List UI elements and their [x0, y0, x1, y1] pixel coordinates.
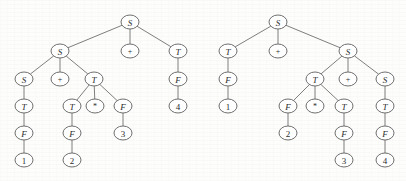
- node-label: S: [383, 75, 388, 85]
- tree-node: S: [51, 44, 69, 58]
- tree-edge: [321, 84, 338, 100]
- node-label: +: [128, 47, 133, 56]
- tree-edge: [30, 56, 53, 74]
- node-label: F: [381, 129, 388, 139]
- node-label: 2: [286, 129, 291, 139]
- tree-node: F: [335, 126, 353, 140]
- parse-trees-svg: SS+TS+TFTT*F4FF312 ST+SFT+S1F*TT2FF34: [0, 0, 406, 181]
- left-tree-group: SS+TS+TFTT*F4FF312: [15, 15, 187, 167]
- tree-node: 3: [335, 153, 353, 167]
- tree-node: T: [335, 99, 353, 113]
- node-label: S: [276, 18, 281, 28]
- node-label: F: [20, 129, 27, 139]
- node-label: 3: [121, 129, 126, 139]
- node-label: S: [128, 18, 133, 28]
- node-label: 4: [383, 156, 388, 166]
- node-label: +: [276, 47, 281, 56]
- tree-node: T: [219, 44, 237, 58]
- tree-node: *: [306, 99, 324, 113]
- node-label: 1: [22, 156, 27, 166]
- node-label: 1: [226, 102, 231, 112]
- tree-node: T: [376, 99, 394, 113]
- node-label: *: [313, 102, 317, 111]
- tree-node: +: [51, 72, 69, 86]
- tree-edge: [294, 85, 310, 101]
- node-label: 4: [176, 102, 181, 112]
- tree-edge: [137, 26, 171, 46]
- tree-node: F: [376, 126, 394, 140]
- tree-edge: [100, 84, 117, 100]
- node-label: +: [346, 75, 351, 84]
- tree-node: 1: [15, 153, 33, 167]
- tree-node: T: [306, 72, 324, 86]
- node-label: F: [224, 75, 231, 85]
- tree-node: *: [86, 99, 104, 113]
- tree-node: S: [269, 15, 287, 29]
- node-label: S: [22, 75, 27, 85]
- tree-node: +: [269, 44, 287, 58]
- node-label: 3: [342, 156, 347, 166]
- node-label: F: [174, 75, 181, 85]
- tree-edge: [286, 25, 340, 47]
- tree-node: 2: [279, 126, 297, 140]
- tree-node: 1: [219, 99, 237, 113]
- tree-node: 4: [376, 153, 394, 167]
- node-label: 2: [70, 156, 75, 166]
- tree-edge: [235, 26, 271, 47]
- node-label: S: [346, 47, 351, 57]
- node-label: S: [58, 47, 63, 57]
- tree-node: F: [114, 99, 132, 113]
- tree-node: T: [15, 99, 33, 113]
- tree-node: F: [279, 99, 297, 113]
- tree-edge: [77, 85, 89, 100]
- node-label: +: [58, 75, 63, 84]
- tree-node: T: [85, 72, 103, 86]
- node-label: F: [284, 102, 291, 112]
- tree-edge: [66, 56, 88, 74]
- tree-node: +: [121, 44, 139, 58]
- tree-node: S: [15, 72, 33, 86]
- tree-edge: [68, 25, 122, 47]
- node-label: F: [119, 102, 126, 112]
- tree-edge: [321, 56, 342, 74]
- tree-node: S: [376, 72, 394, 86]
- tree-node: 4: [169, 99, 187, 113]
- tree-node: T: [169, 44, 187, 58]
- tree-node: F: [219, 72, 237, 86]
- tree-node: S: [339, 44, 357, 58]
- right-tree-group: ST+SFT+S1F*TT2FF34: [219, 15, 394, 167]
- tree-node: F: [169, 72, 187, 86]
- tree-node: T: [63, 99, 81, 113]
- node-label: F: [340, 129, 347, 139]
- tree-node: S: [121, 15, 139, 29]
- tree-node: 3: [114, 126, 132, 140]
- tree-edge: [354, 56, 378, 74]
- tree-node: 2: [63, 153, 81, 167]
- figure-canvas: SS+TS+TFTT*F4FF312 ST+SFT+S1F*TT2FF34: [0, 0, 406, 181]
- tree-node: F: [63, 126, 81, 140]
- node-label: *: [93, 102, 97, 111]
- tree-node: +: [339, 72, 357, 86]
- node-label: F: [68, 129, 75, 139]
- tree-node: F: [15, 126, 33, 140]
